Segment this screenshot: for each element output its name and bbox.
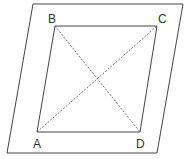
diagram-canvas: A B C D bbox=[0, 0, 189, 159]
diagonal-bd bbox=[55, 26, 140, 132]
vertex-label-d: D bbox=[136, 137, 145, 151]
vertex-label-c: C bbox=[158, 12, 167, 26]
vertex-label-b: B bbox=[48, 12, 56, 26]
vertex-label-a: A bbox=[33, 137, 41, 151]
